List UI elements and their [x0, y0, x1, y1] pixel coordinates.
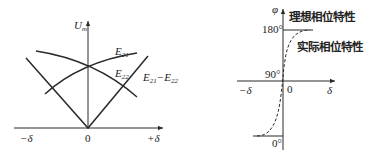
left-x-pos-label: +δ — [147, 132, 160, 144]
left-y-axis-label: Um — [74, 19, 87, 33]
right-x-pos-label: δ — [327, 84, 333, 96]
left-diagram: Um E21 E22 E21−E22 −δ 0 +δ — [14, 19, 178, 144]
legend-ideal: 理想相位特性 — [289, 10, 356, 24]
tick-180: 180° — [262, 23, 283, 35]
label-e21: E21 — [114, 45, 129, 59]
right-x-neg-label: −δ — [239, 84, 252, 96]
label-e21-minus-e22: E21−E22 — [142, 71, 178, 85]
label-e22: E22 — [114, 67, 129, 81]
right-origin-label: 0 — [287, 83, 293, 95]
left-origin-label: 0 — [85, 132, 91, 144]
left-x-neg-label: −δ — [20, 132, 33, 144]
right-y-axis-label: φ — [272, 3, 278, 15]
diagram-canvas: Um E21 E22 E21−E22 −δ 0 +δ φ 180° 90° 0°… — [0, 0, 369, 158]
tick-0: 0° — [272, 137, 282, 149]
tick-90: 90° — [265, 68, 280, 80]
legend-actual: 实际相位特性 — [297, 40, 364, 54]
right-diagram: φ 180° 90° 0° −δ 0 δ 理想相位特性 实际相位特性 — [237, 3, 364, 150]
